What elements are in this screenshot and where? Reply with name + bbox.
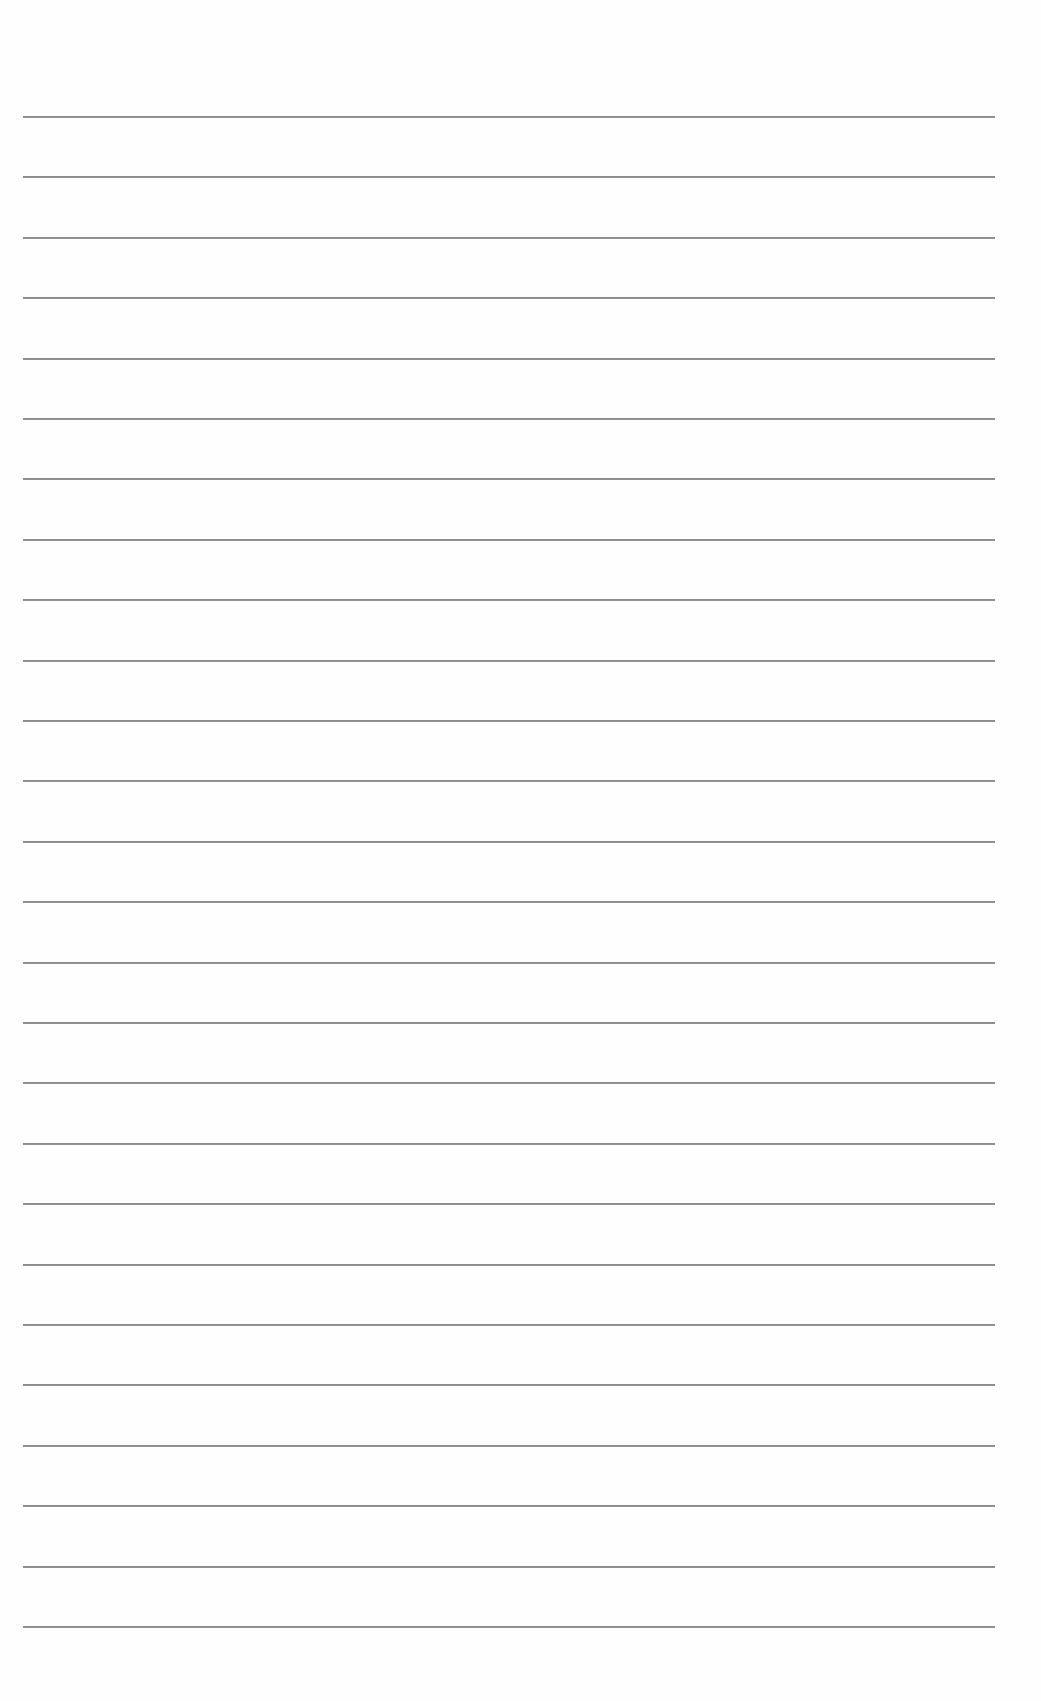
ruled-line	[23, 599, 995, 601]
ruled-line	[23, 1626, 995, 1628]
ruled-line	[23, 1445, 995, 1447]
ruled-line	[23, 1203, 995, 1205]
ruled-line	[23, 418, 995, 420]
lined-paper-sheet	[0, 0, 1041, 1701]
ruled-line	[23, 1566, 995, 1568]
ruled-line	[23, 1505, 995, 1507]
ruled-line	[23, 841, 995, 843]
ruled-line	[23, 116, 995, 118]
ruled-line	[23, 1143, 995, 1145]
ruled-line	[23, 1264, 995, 1266]
ruled-line	[23, 176, 995, 178]
ruled-line	[23, 478, 995, 480]
ruled-line	[23, 962, 995, 964]
ruled-line	[23, 780, 995, 782]
ruled-line	[23, 720, 995, 722]
ruled-line	[23, 1022, 995, 1024]
ruled-line	[23, 358, 995, 360]
ruled-line	[23, 1384, 995, 1386]
ruled-line	[23, 297, 995, 299]
ruled-line	[23, 1082, 995, 1084]
ruled-line	[23, 660, 995, 662]
ruled-line	[23, 237, 995, 239]
ruled-line	[23, 1324, 995, 1326]
ruled-line	[23, 901, 995, 903]
ruled-line	[23, 539, 995, 541]
